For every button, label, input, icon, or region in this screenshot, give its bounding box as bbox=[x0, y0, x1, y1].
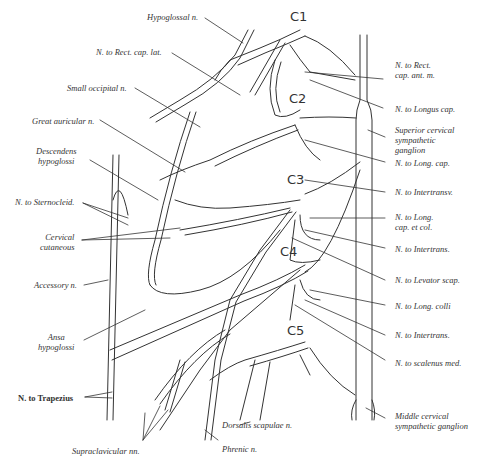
label-small-occipital-n: Small occipital n. bbox=[67, 83, 127, 93]
c5-root bbox=[210, 342, 355, 420]
label-dorsalis-scapulae-n: Dorsalis scapulae n. bbox=[222, 420, 292, 430]
label-phrenic-n: Phrenic n. bbox=[222, 444, 257, 454]
label-superior-cervical-sympathetic-ganglion: Superior cervical sympathetic ganglion bbox=[395, 125, 454, 155]
label-ansa-hypoglossi: Ansa hypoglossi bbox=[38, 332, 74, 352]
label-n-to-intertransv: N. to Intertransv. bbox=[395, 187, 453, 197]
label-middle-cervical-sympathetic-ganglion: Middle cervical sympathetic ganglion bbox=[395, 411, 468, 431]
label-supraclavicular-nn: Supraclavicular nn. bbox=[72, 446, 140, 456]
leader-lines bbox=[82, 18, 385, 440]
label-cervical-cutaneous: Cervical cutaneous bbox=[40, 232, 74, 252]
level-c5: C5 bbox=[287, 323, 304, 338]
label-n-to-levator-scap: N. to Levator scap. bbox=[395, 275, 460, 285]
label-n-to-trapezius: N. to Trapezius bbox=[18, 393, 73, 403]
c4-root bbox=[110, 170, 360, 430]
label-n-to-long-cap-et-col: N. to Long. cap. et col. bbox=[395, 212, 433, 232]
label-hypoglossal-n: Hypoglossal n. bbox=[147, 12, 198, 22]
supraclavicular-nerves bbox=[155, 330, 230, 412]
label-n-to-intertrans-2: N. to Intertrans. bbox=[395, 330, 450, 340]
label-accessory-n: Accessory n. bbox=[34, 280, 77, 290]
sympathetic-trunk bbox=[352, 35, 375, 420]
label-n-to-long-colli: N. to Long. colli bbox=[395, 301, 451, 311]
label-n-to-intertrans-1: N. to Intertrans. bbox=[395, 244, 450, 254]
label-descendens-hypoglossi: Descendens hypoglossi bbox=[36, 146, 77, 166]
label-n-to-longus-cap: N. to Longus cap. bbox=[395, 104, 455, 114]
c1-root bbox=[215, 30, 355, 95]
level-c1: C1 bbox=[290, 9, 307, 24]
label-n-to-long-cap: N. to Long. cap. bbox=[395, 158, 450, 168]
label-n-to-rect-cap-lat: N. to Rect. cap. lat. bbox=[96, 47, 162, 57]
label-great-auricular-n: Great auricular n. bbox=[32, 116, 94, 126]
label-n-to-scalenus-med: N. to scalenus med. bbox=[395, 358, 461, 368]
label-n-to-sternocleid: N. to Sternocleid. bbox=[15, 197, 75, 207]
accessory-nerve bbox=[107, 155, 128, 420]
cervical-plexus-diagram: C1 C2 C3 C4 C5 Hypoglossal n. N. to Rect… bbox=[0, 0, 486, 461]
level-c4: C4 bbox=[280, 244, 297, 259]
label-n-to-rect-cap-ant-m: N. to Rect. cap. ant. m. bbox=[395, 60, 435, 80]
level-c3: C3 bbox=[287, 172, 304, 187]
c3-root bbox=[175, 162, 360, 440]
level-c2: C2 bbox=[289, 91, 306, 106]
